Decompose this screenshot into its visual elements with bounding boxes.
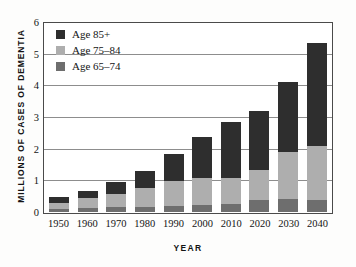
bar-segment [221, 122, 241, 178]
x-axis-tick-label: 2040 [303, 218, 332, 229]
legend: Age 85+Age 75–84Age 65–74 [56, 27, 121, 73]
bar-segment [192, 205, 212, 212]
bar-segment [78, 191, 98, 198]
legend-item-label: Age 65–74 [72, 60, 121, 72]
bar-segment [307, 43, 327, 146]
x-axis-tick-labels: 1950196019701980199020002010202020302040 [44, 218, 332, 229]
bar-segment [278, 152, 298, 199]
bar [221, 122, 241, 212]
bar [49, 197, 69, 212]
bar-segment [135, 188, 155, 206]
bar [278, 82, 298, 212]
bar-segment [307, 146, 327, 200]
bar-segment [106, 182, 126, 194]
x-axis-tick-label: 2030 [274, 218, 303, 229]
bar-segment [192, 178, 212, 205]
x-axis-tick-label: 2000 [188, 218, 217, 229]
bar-segment [221, 204, 241, 212]
x-axis-title: YEAR [43, 243, 333, 253]
x-axis-tick-label: 1970 [102, 218, 131, 229]
legend-swatch-icon [56, 30, 65, 39]
legend-item: Age 65–74 [56, 59, 121, 73]
dementia-cases-chart: MILLIONS OF CASES OF DEMENTIA 0123456 19… [0, 0, 356, 267]
x-axis-tick-label: 2010 [217, 218, 246, 229]
x-axis-tick-label: 1980 [130, 218, 159, 229]
bar [135, 171, 155, 212]
x-axis-tick-label: 1950 [44, 218, 73, 229]
y-axis-title: MILLIONS OF CASES OF DEMENTIA [14, 16, 28, 216]
legend-item-label: Age 75–84 [72, 44, 121, 56]
bar [78, 191, 98, 212]
bar-segment [278, 82, 298, 152]
bar [249, 111, 269, 212]
x-axis-tick-label: 1990 [159, 218, 188, 229]
bar [307, 43, 327, 212]
bar-segment [307, 200, 327, 212]
bar [164, 154, 184, 212]
bar [192, 137, 212, 212]
bar-segment [135, 171, 155, 189]
bar-segment [164, 154, 184, 181]
bar-segment [278, 199, 298, 212]
bar-segment [78, 198, 98, 208]
bar-segment [135, 207, 155, 212]
legend-item-label: Age 85+ [72, 28, 110, 40]
bar-segment [49, 209, 69, 212]
bar-segment [78, 208, 98, 212]
bar-segment [221, 178, 241, 204]
bar-segment [164, 206, 184, 212]
legend-swatch-icon [56, 46, 65, 55]
bar-segment [249, 170, 269, 200]
bar-segment [106, 207, 126, 212]
bar [106, 182, 126, 212]
x-axis-tick-label: 1960 [73, 218, 102, 229]
x-axis-tick-label: 2020 [246, 218, 275, 229]
bar-segment [164, 181, 184, 205]
legend-item: Age 85+ [56, 27, 121, 41]
bar-segment [192, 137, 212, 178]
bar-segment [249, 200, 269, 212]
bar-segment [106, 194, 126, 207]
bar-segment [249, 111, 269, 170]
legend-swatch-icon [56, 62, 65, 71]
legend-item: Age 75–84 [56, 43, 121, 57]
